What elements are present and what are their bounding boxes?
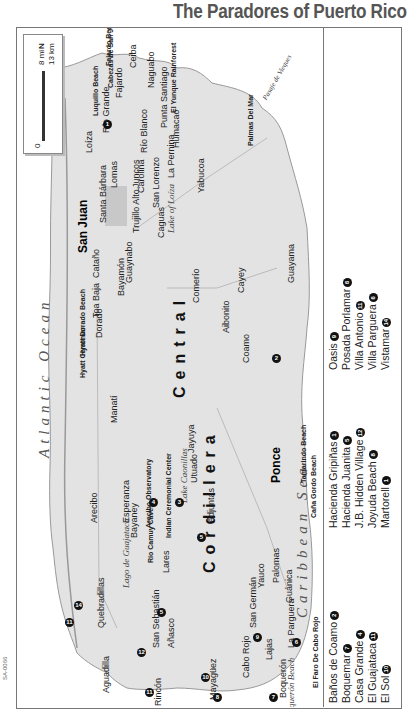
caribbean-label: Caribbean Sea [295, 463, 310, 618]
legend-item[interactable]: El Guajataca11 [367, 632, 378, 703]
parador-pin[interactable]: 6 [292, 638, 301, 647]
legend-item[interactable]: Joyuda Beach8 [367, 450, 378, 528]
scale-line [42, 71, 45, 141]
parador-pin[interactable]: 1 [103, 120, 112, 129]
legend-item[interactable]: Martorell1 [380, 476, 391, 528]
parador-pin[interactable]: 2 [272, 354, 281, 363]
city-san-juan: San Juan [77, 200, 89, 253]
map-panel: 0 8 mi 13 km N Atlantic Ocean Caribbean … [17, 28, 324, 707]
atlantic-label: Atlantic Ocean [37, 298, 52, 458]
legend-item[interactable]: Hacienda Juanita5 [341, 436, 352, 528]
legend-item[interactable]: Villa Antonio11 [354, 301, 365, 370]
parador-pin[interactable]: 9 [253, 633, 262, 642]
parador-pin[interactable]: 4 [149, 498, 158, 507]
legend-item[interactable]: Hacienda Gripiñas1 [328, 431, 339, 528]
parador-pin[interactable]: 10 [201, 673, 210, 682]
parador-pin[interactable]: 8 [213, 693, 222, 702]
parador-pin[interactable]: 5 [197, 533, 206, 542]
parador-pin[interactable]: 12 [137, 648, 146, 657]
legend-item[interactable]: Oasis9 [328, 332, 339, 370]
legend-item[interactable]: Vistamar14 [380, 318, 391, 370]
compass-icon: N [38, 43, 46, 49]
parador-pin[interactable]: 5 [157, 608, 166, 617]
legend-item[interactable]: Posada Porlamar6 [341, 278, 352, 370]
legend-item[interactable]: Baños de Coamo2 [328, 611, 339, 703]
parador-pin[interactable]: 11 [145, 688, 154, 697]
parador-pin[interactable]: 3 [175, 498, 184, 507]
parador-pin[interactable]: 7 [269, 693, 278, 702]
city-ponce: Ponce [270, 447, 282, 483]
legend-item[interactable]: Casa Grande4 [354, 630, 365, 703]
legend-item[interactable]: Villa Parguera6 [367, 293, 378, 370]
legend-item[interactable]: J.B. Hidden Village12 [354, 428, 365, 528]
page-title: The Paradores of Puerto Rico [173, 0, 407, 23]
legend-item[interactable]: El Sol10 [380, 665, 391, 703]
scale-bar: 0 8 mi 13 km N [23, 34, 63, 154]
legend-panel: Baños de Coamo2 Boquemar7 Casa Grande4 E… [324, 28, 401, 707]
mountain-label-2: Central [172, 294, 188, 398]
figure-code: SA-0066 [2, 657, 8, 680]
parador-pin[interactable]: 14 [74, 601, 83, 610]
parador-pin[interactable]: 11 [65, 618, 74, 627]
legend-item[interactable]: Boquemar7 [341, 644, 352, 703]
